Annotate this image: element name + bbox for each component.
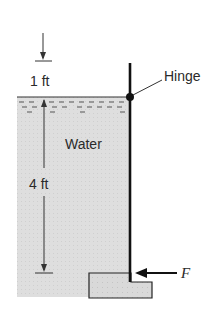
water-body: Water xyxy=(17,97,130,297)
fluid-label: Water xyxy=(65,136,102,152)
top-dimension: 1 ft xyxy=(30,33,52,89)
depth-dimension-label: 4 ft xyxy=(29,176,49,192)
hinge-label: Hinge xyxy=(164,68,201,84)
hinge: Hinge xyxy=(126,68,201,101)
gate-stop-block xyxy=(89,273,152,298)
top-dimension-label: 1 ft xyxy=(30,73,50,89)
force-label: F xyxy=(180,265,191,281)
hinge-icon xyxy=(126,93,134,101)
gate-diagram: Water 1 ft 4 ft Hinge F xyxy=(0,0,222,317)
force-arrow: F xyxy=(135,265,191,281)
